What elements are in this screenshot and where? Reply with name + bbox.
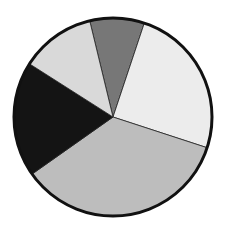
pie-chart — [0, 0, 229, 227]
